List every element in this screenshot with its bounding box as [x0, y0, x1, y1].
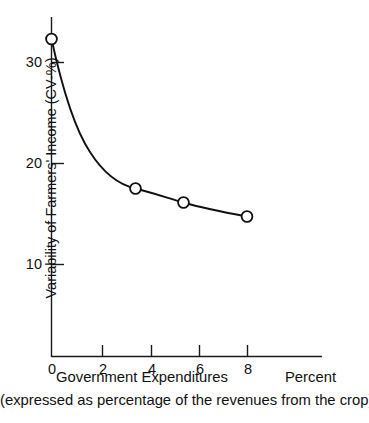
data-point-marker [130, 183, 141, 194]
x-axis-unit-label: Percent [285, 370, 336, 385]
y-tick-label-20: 20 [10, 156, 42, 171]
chart-figure: 30 20 10 0 2 4 6 8 Variability of Farmer… [0, 0, 369, 423]
data-point-marker [178, 197, 189, 208]
x-axis-ticks [103, 345, 248, 357]
y-axis-title: Variability of Farmers' Income (CV-%) [44, 28, 59, 328]
x-axis-title: Government Expenditures [56, 370, 228, 385]
x-tick-label-8: 8 [238, 362, 258, 377]
y-tick-label-30: 30 [10, 55, 42, 70]
y-tick-label-10: 10 [10, 257, 42, 272]
data-point-marker [242, 211, 253, 222]
data-series-line [52, 39, 248, 217]
figure-caption: (expressed as percentage of the revenues… [0, 393, 369, 408]
